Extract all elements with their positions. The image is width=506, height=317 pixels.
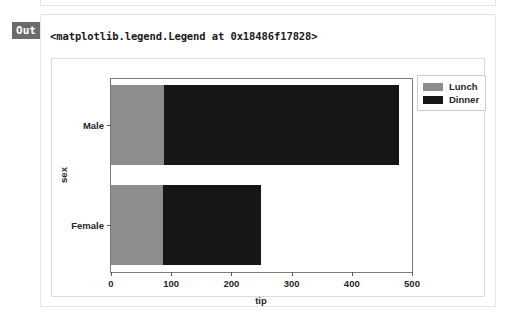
y-axis-tick-label-female: Female xyxy=(71,220,104,231)
x-axis-tick-label: 200 xyxy=(223,278,239,289)
y-axis-tick-label-male: Male xyxy=(83,120,104,131)
bar-segment-female-dinner xyxy=(163,185,261,265)
axes-inner: 0100200300400500tipMaleFemalesex xyxy=(111,79,412,272)
x-axis-tick xyxy=(412,272,413,276)
previous-cell-box xyxy=(40,0,496,6)
x-axis-tick-label: 0 xyxy=(108,278,113,289)
x-axis-tick-label: 300 xyxy=(284,278,300,289)
x-axis-tick xyxy=(352,272,353,276)
bar-segment-male-dinner xyxy=(164,85,399,165)
x-axis-tick-label: 100 xyxy=(163,278,179,289)
bar-segment-female-lunch xyxy=(111,185,163,265)
legend-label: Dinner xyxy=(449,94,479,105)
chart-legend: LunchDinner xyxy=(417,75,486,111)
output-cell: <matplotlib.legend.Legend at 0x18486f178… xyxy=(40,14,496,307)
legend-swatch-icon xyxy=(423,96,443,104)
x-axis-tick xyxy=(171,272,172,276)
plot-axes: 0100200300400500tipMaleFemalesex xyxy=(110,78,413,273)
legend-item-dinner: Dinner xyxy=(423,93,479,106)
x-axis-tick xyxy=(292,272,293,276)
y-axis-tick xyxy=(107,125,111,126)
x-axis-tick-label: 400 xyxy=(344,278,360,289)
legend-item-lunch: Lunch xyxy=(423,80,479,93)
notebook-cell-strip-above xyxy=(0,0,506,10)
legend-repr-text: <matplotlib.legend.Legend at 0x18486f178… xyxy=(50,30,318,42)
x-axis-tick xyxy=(111,272,112,276)
legend-swatch-icon xyxy=(423,83,443,91)
matplotlib-figure: 0100200300400500tipMaleFemalesex LunchDi… xyxy=(51,58,485,297)
bar-segment-male-lunch xyxy=(111,85,164,165)
y-axis-tick xyxy=(107,225,111,226)
x-axis-tick-label: 500 xyxy=(404,278,420,289)
legend-label: Lunch xyxy=(449,81,478,92)
y-axis-label: sex xyxy=(58,167,69,183)
output-prompt-badge: Out xyxy=(12,22,40,39)
x-axis-label: tip xyxy=(255,295,267,306)
x-axis-tick xyxy=(231,272,232,276)
